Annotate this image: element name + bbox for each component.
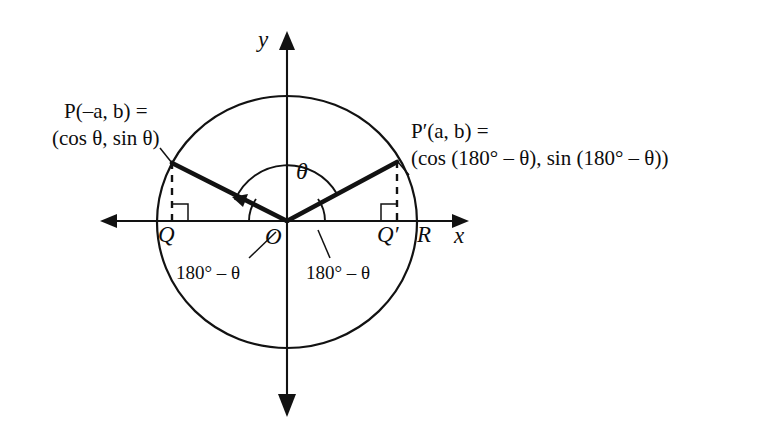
y-axis-label: y xyxy=(258,25,268,54)
angle-label-right-supplementary: 180° – θ xyxy=(306,261,370,285)
label-p-left-line1: P(–a, b) = xyxy=(52,98,160,125)
angle-label-theta: θ xyxy=(296,156,308,187)
label-p-left-line2: (cos θ, sin θ) xyxy=(52,125,160,152)
right-angle-marker-right xyxy=(381,204,397,221)
y-axis-top-arrowhead xyxy=(279,31,295,50)
trigonometry-figure: P(–a, b) = (cos θ, sin θ) P′(a, b) = (co… xyxy=(0,0,773,433)
leader-line-right-angle xyxy=(318,230,330,258)
label-p-left: P(–a, b) = (cos θ, sin θ) xyxy=(52,98,160,152)
right-angle-marker-left xyxy=(172,204,188,221)
ray-to-p-left xyxy=(172,163,287,221)
leader-line-p-left xyxy=(160,148,172,163)
point-label-origin: O xyxy=(265,222,282,251)
y-axis-bottom-arrowhead xyxy=(278,394,296,417)
label-p-right-line1: P′(a, b) = xyxy=(411,118,668,145)
point-label-q-prime: Q′ xyxy=(377,220,399,249)
point-label-q: Q xyxy=(158,220,175,249)
x-axis-left-arrowhead xyxy=(100,214,117,228)
label-p-right: P′(a, b) = (cos (180° – θ), sin (180° – … xyxy=(411,118,668,172)
diagram-canvas xyxy=(0,0,773,433)
angle-label-left-supplementary: 180° – θ xyxy=(176,261,240,285)
x-axis-label: x xyxy=(454,221,464,250)
point-label-r: R xyxy=(417,220,431,249)
label-p-right-line2: (cos (180° – θ), sin (180° – θ)) xyxy=(411,145,668,172)
